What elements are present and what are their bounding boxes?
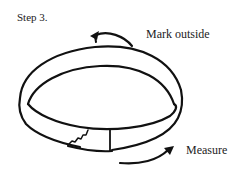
ring-outer-rim xyxy=(20,46,181,98)
jagged-cut-line xyxy=(68,130,88,145)
curved-arrow-counterclockwise-icon xyxy=(90,31,132,46)
measure-label: Measure xyxy=(186,143,227,158)
curved-arrow-right-icon xyxy=(120,146,174,163)
ring-band-top-edge xyxy=(28,104,176,129)
ring-band-bottom-edge xyxy=(68,146,112,151)
ring-inner-rim xyxy=(28,66,174,104)
mark-outside-label: Mark outside xyxy=(146,27,210,42)
